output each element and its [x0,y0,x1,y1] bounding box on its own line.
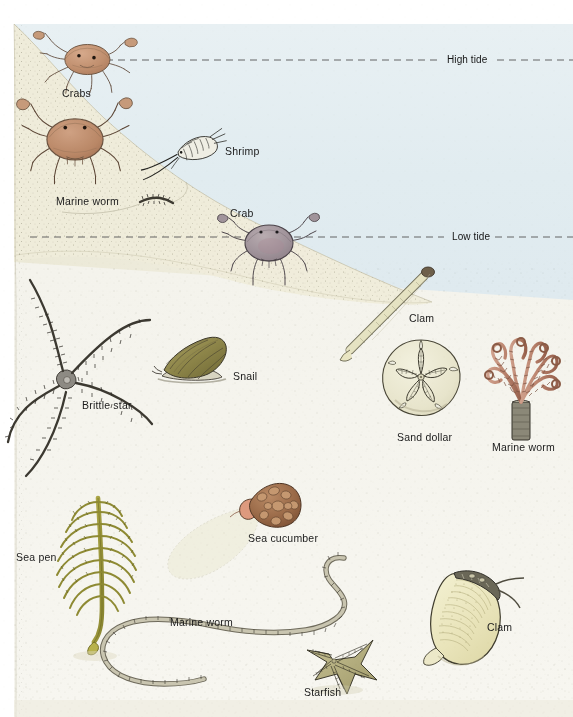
label-crab-single: Crab [230,208,254,219]
label-crabs: Crabs [62,88,91,99]
label-sand-dollar: Sand dollar [397,432,452,443]
label-clam-upper: Clam [409,313,434,324]
label-clam-lower: Clam [487,622,512,633]
label-starfish: Starfish [304,687,341,698]
label-marine-worm-2: Marine worm [492,442,555,453]
label-shrimp: Shrimp [225,146,259,157]
beach-zonation-figure: Crabs Shrimp Marine worm Crab Clam Britt… [0,0,573,717]
label-high-tide: High tide [447,54,487,65]
label-marine-worm-1: Marine worm [56,196,119,207]
label-marine-worm-3: Marine worm [170,617,233,628]
label-sea-pen: Sea pen [16,552,57,563]
label-low-tide: Low tide [452,231,490,242]
illustration-canvas [0,0,573,717]
label-sea-cucumber: Sea cucumber [248,533,318,544]
label-brittle-star: Brittle star [82,400,132,411]
label-snail: Snail [233,371,257,382]
